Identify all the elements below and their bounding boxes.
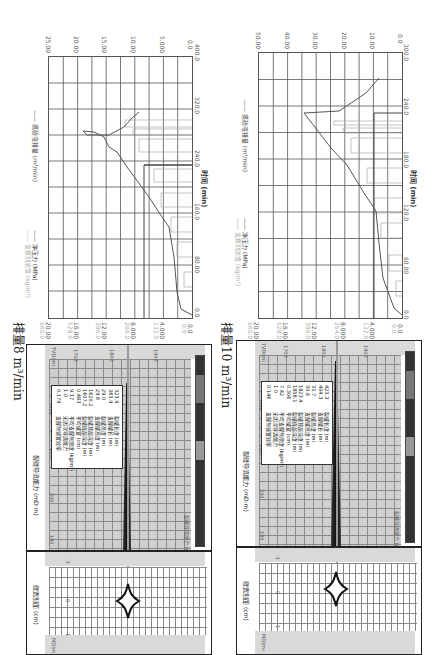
chart1-conc-tick: 132.0 [153, 322, 160, 339]
width-tick: -1 [275, 555, 281, 560]
chart2-conc-tick: 132.0 [363, 322, 370, 339]
chart1-rate-tick: 25.00 [45, 36, 52, 53]
depth-tick: 1700 [283, 345, 289, 358]
fracture-panel-8: 裂缝导流能力 (mD·m) 裂缝导流能力 (mD·m) 400 300 200 … [26, 344, 212, 655]
width-tick: -1 [65, 559, 71, 564]
table-label: 裂缝底部深度 (m) [292, 412, 298, 467]
chart2-xlabel: 时间 (min) [409, 170, 419, 208]
width-profile-title: 缝宽剖面 (cm) [32, 585, 41, 625]
depth-tick: 1700 [73, 349, 79, 362]
fracture-results-table: 323.9 363.9 29.0 29.6 1620.2 1607.2 0.48… [51, 385, 123, 469]
table-value: 31.7 [311, 385, 317, 403]
table-label: 支撑剂铺置效率 [56, 416, 62, 471]
fracture-panel-10: 裂缝导流能力 (mD·m) 裂缝导流能力 (mD·m) 400 300 200 … [236, 340, 422, 655]
chart1-conc-tick: 396.0 [95, 322, 102, 339]
chart2-rate-tick: 40.00 [284, 32, 291, 49]
table-value: 0.146 [266, 385, 272, 403]
chart1-x-tick: 240.0 [194, 150, 201, 167]
table-label: 支撑缝高度 (m) [304, 412, 310, 467]
table-value: 30.6 [304, 385, 310, 403]
width-profile-title: 缝宽剖面 (cm) [242, 581, 251, 621]
chart1-pressure-tick: 16.00 [73, 322, 80, 339]
width-tick: 0 [275, 591, 281, 594]
table-value: 29.6 [94, 389, 100, 407]
chart1-x-tick: 80.00 [194, 256, 201, 273]
chart1-conc-tick: 528.0 [67, 322, 74, 339]
chart-1-plot [49, 57, 192, 318]
table-label: 裂缝底部深度 (m) [82, 416, 88, 471]
chart2-rate-tick: 0.0 [397, 34, 404, 44]
conductivity-title: 裂缝导流能力 (mD·m) [32, 455, 41, 516]
width-md-strip [45, 635, 205, 654]
table-label: 支撑缝长 (m) [317, 412, 323, 467]
chart2-conc-tick: 0.0 [391, 324, 398, 334]
chart2-x-tick: 300.0 [403, 44, 410, 61]
table-label: 平均支撑剂浓度 (kg/m²) [279, 412, 285, 467]
table-label: 无因次导流能力 [62, 416, 68, 471]
chart2-rate-tick: 30.00 [312, 32, 319, 49]
chart2-pressure-tick: 12.00 [311, 322, 318, 339]
chart-rate-10 [258, 52, 403, 319]
width-tick: 1 [65, 633, 71, 636]
table-value: 1858.1 [292, 385, 298, 403]
chart1-conc-tick: 660.0 [39, 322, 46, 339]
chart1-rate-tick: 15.00 [101, 36, 108, 53]
chart2-pressure-tick: 0.0 [397, 324, 404, 334]
chart2-pressure-tick: 20.00 [253, 322, 260, 339]
depth-tick: 1800 [321, 345, 327, 358]
chart2-conc-tick: 264.0 [334, 322, 341, 339]
table-value: 423.3 [324, 385, 330, 403]
conductivity-tick: 200 [259, 489, 265, 499]
chart2-pressure-tick: 4.000 [369, 322, 376, 339]
table-value: 323.9 [114, 389, 120, 407]
chart1-rate-tick: 0.0 [187, 40, 194, 50]
chart1-x-tick: 0.0 [194, 308, 201, 318]
chart2-legend-rate: —— 携砂液排量 (m³/min) [241, 100, 250, 172]
table-value: 1823.4 [298, 385, 304, 403]
table-labels: 裂缝长度 (m) 支撑缝长 (m) 裂缝高度 (m) 支撑缝高度 (m) 裂缝顶… [56, 416, 120, 471]
table-value: 1.0 [62, 389, 68, 407]
chart1-legend-rate: —— 携砂液排量 (m³/min) [31, 110, 40, 182]
chart1-pressure-tick: 4.000 [159, 322, 166, 339]
fracture-results-table: 423.3 404.3 31.7 30.6 1823.4 1858.1 0.30… [261, 381, 333, 465]
table-value: 0.179 [56, 389, 62, 407]
chart2-pressure-tick: 16.00 [282, 322, 289, 339]
width-tick: 0 [65, 599, 71, 602]
width-tick: 1 [275, 625, 281, 628]
table-label: 平均支撑剂浓度 (kg/m²) [69, 416, 75, 471]
table-value: 363.9 [107, 389, 113, 407]
table-value: 29.0 [101, 389, 107, 407]
table-value: 0.306 [285, 385, 291, 403]
md-label: MD(m) [51, 638, 57, 655]
table-value: 1620.2 [88, 389, 94, 407]
table-label: 裂缝高度 (m) [101, 416, 107, 471]
depth-tick: 1900 [153, 349, 159, 362]
chart2-legend-conc: —— 支撑剂浓度 (kg/m³) [234, 218, 243, 286]
table-value: 7.42 [279, 385, 285, 403]
chart2-rate-tick: 50.00 [255, 32, 262, 49]
depth-tick: 1800 [109, 349, 115, 362]
conductivity-colorbar [405, 351, 415, 543]
table-value: 1.0 [272, 385, 278, 403]
table-label: 平均缝宽 (cm) [285, 412, 291, 467]
chart1-pressure-tick: 0.0 [187, 324, 194, 334]
chart2-x-tick: 180.0 [403, 151, 410, 168]
table-label: 平均缝宽 (cm) [75, 416, 81, 471]
table-value: 0.483 [75, 389, 81, 407]
table-label: 支撑剂铺置效率 [266, 412, 272, 467]
width-md-strip [255, 631, 415, 654]
chart2-conc-tick: 660.0 [247, 322, 254, 339]
table-label: 裂缝长度 (m) [114, 416, 120, 471]
chart2-conc-tick: 396.0 [305, 322, 312, 339]
chart1-pressure-tick: 20.00 [45, 322, 52, 339]
chart2-x-tick: 240.0 [403, 98, 410, 115]
table-values: 323.9 363.9 29.0 29.6 1620.2 1607.2 0.48… [56, 389, 120, 407]
table-label: 裂缝顶部深度 (m) [298, 412, 304, 467]
width-profile-shape [115, 583, 141, 619]
chart1-conc-tick: 264.0 [124, 322, 131, 339]
chart1-rate-tick: 20.00 [73, 36, 80, 53]
chart1-conc-tick: 0.0 [181, 324, 188, 334]
table-labels: 裂缝长度 (m) 支撑缝长 (m) 裂缝高度 (m) 支撑缝高度 (m) 裂缝顶… [266, 412, 330, 467]
table-value: 1607.2 [82, 389, 88, 407]
md-strip [255, 341, 415, 355]
